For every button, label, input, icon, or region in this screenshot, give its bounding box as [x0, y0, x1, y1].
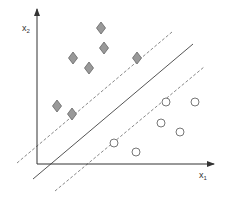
diamond-point [53, 100, 62, 112]
data-points [53, 22, 200, 156]
circle-point [157, 119, 165, 127]
x-axis-label: x1 [199, 170, 208, 181]
x1-label: x1 [199, 170, 208, 181]
diamond-point [69, 52, 78, 64]
circle-point [191, 98, 199, 106]
margin-upper-line [17, 32, 172, 163]
diamond-point [97, 22, 106, 34]
diamond-point [68, 108, 77, 120]
diamond-point [133, 52, 142, 64]
diamond-point [85, 62, 94, 74]
y-axis-label: x2 [22, 23, 31, 34]
separating-lines [17, 32, 204, 191]
svm-diagram: x1 x2 [0, 0, 228, 201]
axes [37, 9, 214, 164]
circle-point [162, 98, 170, 106]
circle-point [132, 148, 140, 156]
circle-point [176, 128, 184, 136]
x2-label: x2 [22, 23, 31, 34]
circle-point [110, 139, 118, 147]
diamond-point [100, 42, 109, 54]
